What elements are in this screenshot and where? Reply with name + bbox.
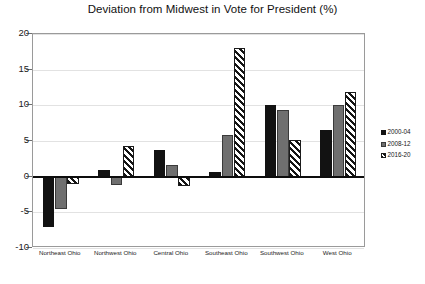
x-axis-category-label: Southwest Ohio — [254, 250, 310, 256]
bar[interactable] — [333, 105, 345, 176]
legend-swatch-icon — [381, 153, 386, 158]
bar[interactable] — [320, 130, 332, 176]
gridline — [33, 70, 364, 71]
bar[interactable] — [55, 177, 67, 210]
legend-label: 2016-20 — [388, 152, 411, 158]
y-axis-tick-label: 15 — [18, 64, 29, 74]
bar[interactable] — [123, 146, 135, 177]
bar[interactable] — [289, 140, 301, 177]
bar[interactable] — [154, 150, 166, 177]
legend-swatch-icon — [381, 130, 386, 135]
legend-item[interactable]: 2016-20 — [381, 151, 425, 160]
legend-item[interactable]: 2008-12 — [381, 140, 425, 149]
chart-title: Deviation from Midwest in Vote for Presi… — [0, 3, 425, 15]
x-axis-category-label: Northwest Ohio — [88, 250, 144, 256]
legend-item[interactable]: 2000-04 — [381, 128, 425, 137]
bar[interactable] — [43, 177, 55, 227]
gridline — [33, 141, 364, 142]
x-axis-category-label: Southeast Ohio — [199, 250, 255, 256]
chart-container: Deviation from Midwest in Vote for Presi… — [0, 0, 425, 284]
zero-baseline — [33, 176, 364, 178]
y-axis-tick-label: 5 — [24, 135, 29, 145]
x-axis-category-label: Northeast Ohio — [32, 250, 88, 256]
chart-legend: 2000-042008-122016-20 — [381, 128, 425, 163]
gridline — [33, 212, 364, 213]
legend-swatch-icon — [381, 142, 386, 147]
gridline — [33, 105, 364, 106]
gridline — [33, 34, 364, 35]
y-axis-tick-label: -5 — [21, 206, 29, 216]
legend-label: 2008-12 — [388, 141, 411, 147]
plot-area — [32, 33, 365, 247]
y-axis-tick-label: 10 — [18, 99, 29, 109]
bar[interactable] — [178, 177, 190, 186]
bar[interactable] — [265, 105, 277, 176]
gridline — [33, 248, 364, 249]
legend-label: 2000-04 — [388, 129, 411, 135]
y-axis-tick-label: 20 — [18, 28, 29, 38]
bar[interactable] — [345, 92, 357, 176]
y-axis-tick-label: -10 — [15, 242, 29, 252]
bar[interactable] — [111, 177, 123, 186]
bar[interactable] — [234, 48, 246, 176]
bar[interactable] — [67, 177, 79, 184]
x-axis-category-label: Central Ohio — [143, 250, 199, 256]
bar[interactable] — [222, 135, 234, 176]
bar[interactable] — [277, 110, 289, 177]
y-axis-tick-label: 0 — [24, 171, 29, 181]
x-axis-category-label: West Ohio — [310, 250, 366, 256]
